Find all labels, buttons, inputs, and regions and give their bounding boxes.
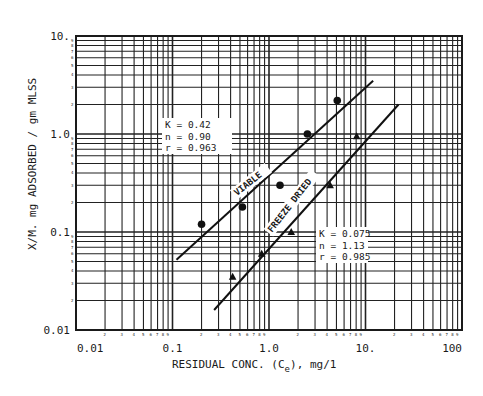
y-tick-label: 1.0 (50, 128, 70, 141)
svg-text:2: 2 (104, 332, 107, 337)
svg-text:9: 9 (167, 332, 170, 337)
svg-text:5: 5 (71, 259, 74, 264)
svg-text:9: 9 (71, 234, 74, 239)
svg-text:5: 5 (238, 332, 241, 337)
circle-marker (304, 130, 312, 138)
svg-text:9: 9 (360, 332, 363, 337)
x-tick-label: 0.01 (77, 342, 104, 355)
svg-text:7: 7 (156, 332, 159, 337)
svg-text:6: 6 (71, 153, 74, 158)
svg-text:4: 4 (133, 332, 136, 337)
svg-text:2: 2 (200, 332, 203, 337)
x-tick-label: 100 (442, 342, 462, 355)
svg-text:3: 3 (71, 85, 74, 90)
svg-text:6: 6 (439, 332, 442, 337)
svg-text:4: 4 (71, 170, 74, 175)
svg-text:2: 2 (71, 200, 74, 205)
annotation-line: K = 0.075 (319, 228, 370, 239)
svg-text:3: 3 (121, 332, 124, 337)
x-tick-label: 1.0 (259, 342, 279, 355)
svg-text:2: 2 (393, 332, 396, 337)
svg-text:5: 5 (335, 332, 338, 337)
x-axis-label: RESIDUAL CONC. (Ce), mg/1 (172, 358, 336, 374)
y-tick-label: 10. (50, 30, 70, 43)
svg-text:3: 3 (217, 332, 220, 337)
y-tick-label: 0.1 (50, 226, 70, 239)
svg-text:8: 8 (71, 239, 74, 244)
svg-text:7: 7 (71, 49, 74, 54)
circle-marker (198, 220, 206, 228)
x-tick-label: 0.1 (163, 342, 183, 355)
circle-marker (239, 203, 247, 211)
svg-text:8: 8 (451, 332, 454, 337)
svg-text:5: 5 (71, 63, 74, 68)
svg-text:4: 4 (326, 332, 329, 337)
svg-text:3: 3 (410, 332, 413, 337)
annotation-line: r = 0.985 (319, 251, 370, 262)
svg-text:3: 3 (314, 332, 317, 337)
svg-text:9: 9 (71, 38, 74, 43)
adsorption-isotherm-chart: 2345678923456789234567892345678923456789… (0, 0, 483, 396)
circle-marker (333, 97, 341, 105)
svg-text:4: 4 (71, 72, 74, 77)
svg-text:6: 6 (71, 251, 74, 256)
tick-labels: 0.010.11.010.1000.010.11.010. (44, 30, 463, 355)
svg-text:8: 8 (355, 332, 358, 337)
svg-text:5: 5 (71, 161, 74, 166)
svg-text:9: 9 (71, 136, 74, 141)
svg-text:8: 8 (71, 43, 74, 48)
svg-text:4: 4 (422, 332, 425, 337)
svg-text:7: 7 (446, 332, 449, 337)
svg-text:4: 4 (71, 268, 74, 273)
x-tick-label: 10. (356, 342, 376, 355)
svg-text:8: 8 (258, 332, 261, 337)
log-grid: 2345678923456789234567892345678923456789… (71, 36, 462, 337)
svg-text:2: 2 (71, 102, 74, 107)
svg-text:6: 6 (71, 55, 74, 60)
y-axis-label: X/M. mg ADSORBED / gm MLSS (26, 78, 39, 250)
y-tick-label: 0.01 (44, 324, 71, 337)
svg-text:7: 7 (349, 332, 352, 337)
svg-text:2: 2 (297, 332, 300, 337)
annotation-line: n = 1.13 (319, 240, 365, 251)
svg-text:3: 3 (71, 281, 74, 286)
svg-text:3: 3 (71, 183, 74, 188)
svg-text:6: 6 (150, 332, 153, 337)
annotation-line: K = 0.42 (165, 119, 211, 130)
svg-text:7: 7 (71, 147, 74, 152)
svg-text:8: 8 (162, 332, 165, 337)
svg-text:9: 9 (263, 332, 266, 337)
svg-text:6: 6 (343, 332, 346, 337)
svg-text:2: 2 (71, 298, 74, 303)
svg-text:4: 4 (229, 332, 232, 337)
annotation-line: r = 0.963 (165, 142, 216, 153)
svg-text:7: 7 (253, 332, 256, 337)
triangle-marker (229, 273, 237, 280)
svg-text:5: 5 (431, 332, 434, 337)
svg-text:5: 5 (142, 332, 145, 337)
svg-text:7: 7 (71, 245, 74, 250)
svg-text:8: 8 (71, 141, 74, 146)
svg-text:6: 6 (246, 332, 249, 337)
circle-marker (276, 181, 284, 189)
annotation-line: n = 0.90 (165, 131, 211, 142)
svg-text:9: 9 (456, 332, 459, 337)
